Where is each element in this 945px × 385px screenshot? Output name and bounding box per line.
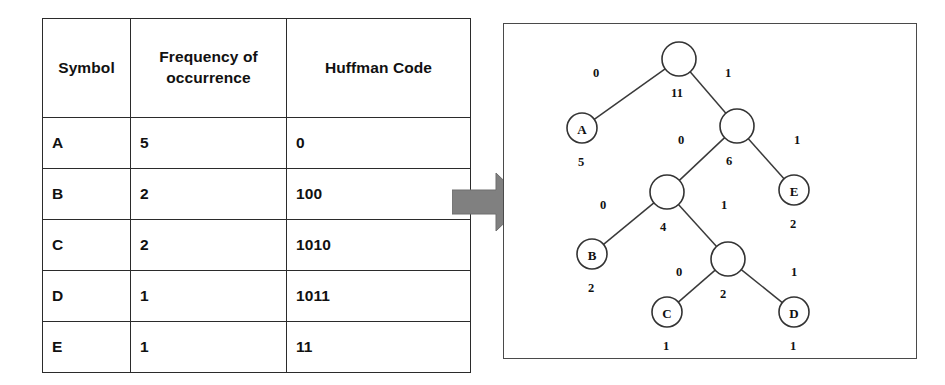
tree-node-leafD: D1 [779, 297, 809, 353]
cell-symbol: C [43, 220, 131, 271]
tree-edge-bit-label: 1 [725, 66, 731, 80]
huffman-code-table: Symbol Frequency of occurrence Huffman C… [42, 18, 471, 373]
tree-node-weight-label: 5 [578, 155, 584, 169]
cell-symbol: E [43, 322, 131, 373]
table-header-row: Symbol Frequency of occurrence Huffman C… [43, 19, 471, 118]
tree-node-symbol-label: C [662, 306, 671, 321]
tree-node-weight-label: 2 [588, 281, 594, 295]
tree-edge-root-n6 [690, 72, 726, 113]
tree-node-leafE: E2 [779, 175, 809, 231]
tree-node-weight-label: 11 [671, 86, 683, 100]
cell-symbol: D [43, 271, 131, 322]
tree-edge-n4-n2 [678, 205, 716, 247]
table-row: E 1 11 [43, 322, 471, 373]
tree-edge-root-leafA [594, 69, 665, 119]
tree-internal-circle [662, 42, 696, 76]
tree-node-leafA: A5 [567, 113, 597, 169]
tree-node-leafB: B2 [577, 239, 607, 295]
cell-symbol: B [43, 169, 131, 220]
tree-edge-bit-label: 1 [791, 265, 797, 279]
tree-edge-bit-label: 0 [600, 198, 606, 212]
tree-internal-circle [650, 175, 684, 209]
cell-frequency: 5 [131, 118, 287, 169]
tree-node-weight-label: 1 [790, 339, 796, 353]
tree-node-symbol-label: D [789, 306, 798, 321]
table-row: B 2 100 [43, 169, 471, 220]
cell-code: 100 [287, 169, 471, 220]
table-row: C 2 1010 [43, 220, 471, 271]
tree-edge-bit-label: 0 [678, 133, 684, 147]
column-header-frequency: Frequency of occurrence [131, 19, 287, 118]
cell-code: 1011 [287, 271, 471, 322]
tree-node-weight-label: 2 [720, 287, 726, 301]
tree-node-n2: 2 [711, 242, 745, 301]
cell-symbol: A [43, 118, 131, 169]
tree-edge-n2-leafC [678, 270, 715, 302]
tree-internal-circle [720, 109, 754, 143]
tree-edge-n6-leafE [748, 139, 784, 179]
tree-node-n4: 4 [650, 175, 684, 234]
tree-node-symbol-label: A [577, 122, 587, 137]
huffman-tree-diagram: 01010101 11642A5E2B2C1D1 [504, 24, 918, 360]
tree-edge-n6-n4 [679, 138, 724, 181]
tree-node-weight-label: 1 [663, 339, 669, 353]
tree-node-symbol-label: E [790, 184, 799, 199]
tree-node-weight-label: 6 [726, 154, 732, 168]
tree-edge-group [594, 69, 784, 303]
tree-edge-bit-label: 0 [593, 66, 599, 80]
column-header-code: Huffman Code [287, 19, 471, 118]
tree-node-weight-label: 4 [660, 220, 667, 234]
tree-node-root: 11 [662, 42, 696, 100]
cell-code: 1010 [287, 220, 471, 271]
cell-frequency: 2 [131, 220, 287, 271]
cell-code: 11 [287, 322, 471, 373]
tree-node-n6: 6 [720, 109, 754, 168]
table-row: A 5 0 [43, 118, 471, 169]
cell-frequency: 2 [131, 169, 287, 220]
cell-frequency: 1 [131, 271, 287, 322]
tree-edge-n4-leafB [604, 203, 654, 245]
table-row: D 1 1011 [43, 271, 471, 322]
tree-edge-bit-label: 0 [676, 265, 682, 279]
cell-frequency: 1 [131, 322, 287, 373]
tree-edge-bit-label: 1 [794, 133, 800, 147]
tree-internal-circle [711, 242, 745, 276]
tree-node-symbol-label: B [588, 248, 597, 263]
huffman-tree-panel: 01010101 11642A5E2B2C1D1 [503, 23, 917, 359]
column-header-symbol: Symbol [43, 19, 131, 118]
tree-edge-bit-label: 1 [721, 198, 727, 212]
tree-edge-n2-leafD [741, 270, 782, 303]
cell-code: 0 [287, 118, 471, 169]
tree-node-weight-label: 2 [790, 217, 796, 231]
tree-node-leafC: C1 [652, 297, 682, 353]
